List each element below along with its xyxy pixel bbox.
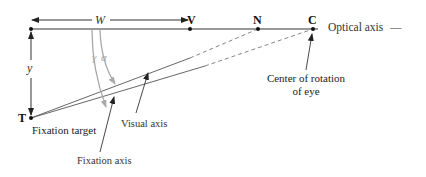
center-of-rotation-label: Center of rotation of eye <box>262 72 350 98</box>
center-pointer <box>306 34 312 70</box>
visual-axis-solid <box>31 66 205 118</box>
optical-axis-label: Optical axis <box>328 21 383 33</box>
origin-point <box>29 27 33 31</box>
w-label: W <box>95 13 105 28</box>
fixation-axis-dashed <box>190 29 258 58</box>
alpha-label: α <box>101 51 107 63</box>
c-label: C <box>308 13 317 28</box>
center-label-line2: of eye <box>262 85 350 98</box>
fixation-target-label: Fixation target <box>32 124 96 136</box>
point-t <box>29 116 33 120</box>
gamma-arc <box>92 30 106 107</box>
n-label: N <box>253 13 262 28</box>
fixation-axis-pointer <box>100 97 114 152</box>
center-label-line1: Center of rotation <box>262 72 350 85</box>
gamma-label: γ <box>92 51 96 63</box>
v-label: V <box>187 13 196 28</box>
fixation-axis-label: Fixation axis <box>77 155 132 166</box>
visual-axis-dashed <box>205 29 313 66</box>
y-label: y <box>27 61 32 76</box>
visual-axis-pointer <box>136 73 148 113</box>
t-label: T <box>18 111 26 126</box>
optical-axis-dash: — <box>390 21 402 33</box>
visual-axis-label: Visual axis <box>121 118 167 129</box>
